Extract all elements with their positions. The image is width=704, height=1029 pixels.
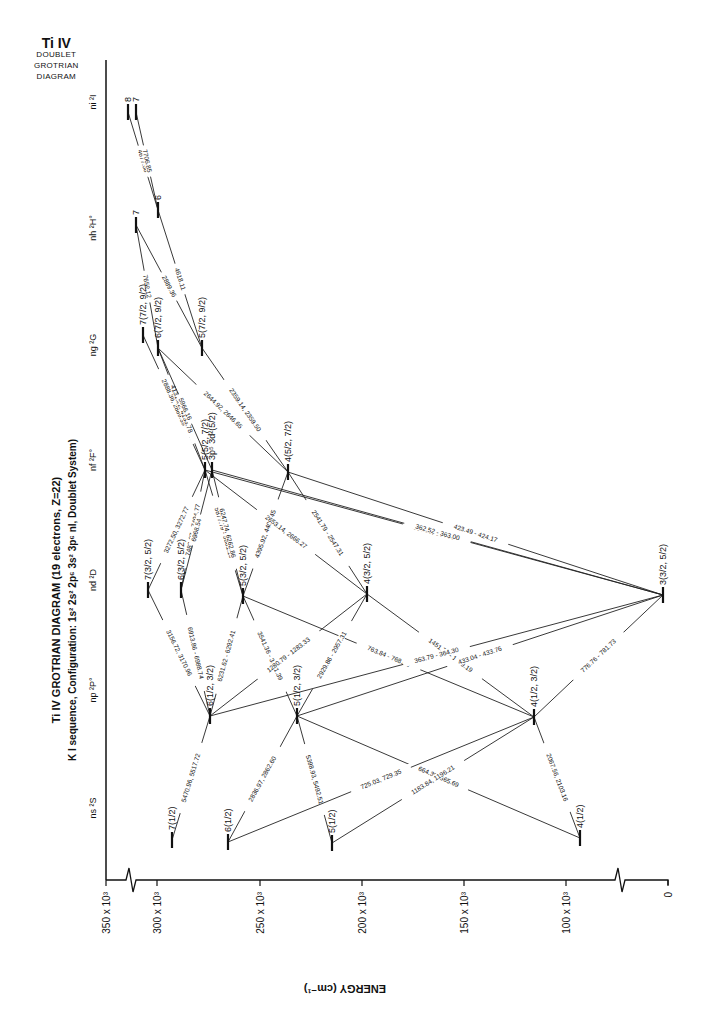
wavelength-label: 5470.96, 5517.72 xyxy=(180,752,202,803)
wavelength-label: 2836.97, 2862.60 xyxy=(247,755,278,803)
level-label: 4(3/2, 5/2) xyxy=(362,543,372,584)
level-label: 5(3/2, 5/2) xyxy=(238,545,248,586)
wavelength-label: 776.76 - 781.73 xyxy=(579,637,617,674)
axis-tick-label: 200 x 10³ xyxy=(357,891,368,933)
axis-tick-label: 300 x 10³ xyxy=(152,891,163,933)
level-label: 4(5/2, 7/2) xyxy=(283,421,293,462)
wavelength-label: 2889.36 xyxy=(161,274,178,298)
wavelength-label: 4618.11 xyxy=(174,267,188,291)
wavelength-label: 2359.14, 2359.50 xyxy=(228,387,263,433)
level-label: 3p⁵ 3d²(5/2) xyxy=(207,412,217,460)
axis-tick-label: 0 xyxy=(663,892,674,898)
wavelength-label: 2929.86 - 2957.31 xyxy=(315,630,348,680)
wavelength-label: 6231.62 - 6292.41 xyxy=(216,629,237,682)
wavelength-label: 2067.56, 2103.16 xyxy=(545,752,570,802)
level-label: 6 xyxy=(153,195,163,200)
level-label: 5(1/2) xyxy=(327,809,337,833)
wavelength-label: 725.03, 729.35 xyxy=(359,767,402,790)
level-label: 4(1/2, 3/2) xyxy=(529,666,539,707)
axis-tick-label: 150 x 10³ xyxy=(459,891,470,933)
level-label: 5(1/2, 3/2) xyxy=(292,665,302,706)
level-label: 6(3/2, 5/2) xyxy=(176,539,186,580)
wavelength-label: 2653.14, 2666.27 xyxy=(264,513,309,550)
level-label: 3(3/2, 5/2) xyxy=(658,544,668,585)
column-label: nf ²F° xyxy=(88,449,98,472)
level-label: 7(3/2, 5/2) xyxy=(143,539,153,580)
column-labels: ni ²Inh ²H°ng ²Gnf ²F°nd ²Dnp ²P°ns ²S xyxy=(88,94,98,818)
level-label: 6(1/2, 3/2) xyxy=(205,665,215,706)
levels: 87677(7/2, 9/2)6(7/2, 9/2)5(7/2, 9/2)5(5… xyxy=(123,97,668,851)
level-label: 7 xyxy=(131,97,141,102)
level-label: 7(7/2, 9/2) xyxy=(138,284,148,325)
title-main: Ti IV GROTRIAN DIAGRAM (19 electrons, Z=… xyxy=(50,476,62,723)
title-sub: K I sequence, Configuration: 1s² 2s² 2p⁶… xyxy=(67,439,78,761)
column-label: ni ²I xyxy=(88,94,98,109)
axis-tick-label: 350 x 10³ xyxy=(101,891,112,933)
level-label: 6(1/2) xyxy=(223,808,233,832)
level-label: 7 xyxy=(131,210,141,215)
wavelength-label: 5398.93, 5492.51 xyxy=(305,754,325,805)
column-label: nh ²H° xyxy=(88,215,98,241)
transitions: 4677.587706.857652.122889.364618.112888.… xyxy=(128,112,663,843)
level-label: 5(7/2, 9/2) xyxy=(197,297,207,338)
axis-tick-label: 100 x 10³ xyxy=(561,891,572,933)
column-label: ng ²G xyxy=(88,334,98,357)
diagram-title: Ti IV GROTRIAN DIAGRAM (19 electrons, Z=… xyxy=(50,439,78,761)
column-label: ns ²S xyxy=(88,797,98,818)
axis-label: ENERGY (cm⁻¹) xyxy=(304,983,387,995)
level-label: 4(1/2) xyxy=(575,804,585,828)
column-label: nd ²D xyxy=(88,568,98,591)
axis-ticks: 350 x 10³300 x 10³250 x 10³200 x 10³150 … xyxy=(101,880,674,934)
level-label: 6(7/2, 9/2) xyxy=(153,297,163,338)
energy-axis xyxy=(106,868,668,892)
axis-tick-label: 250 x 10³ xyxy=(255,891,266,933)
grotrian-diagram: Ti IV GROTRIAN DIAGRAM (19 electrons, Z=… xyxy=(0,0,704,1029)
column-label: np ²P° xyxy=(88,677,98,703)
level-label: 7(1/2) xyxy=(167,806,177,830)
